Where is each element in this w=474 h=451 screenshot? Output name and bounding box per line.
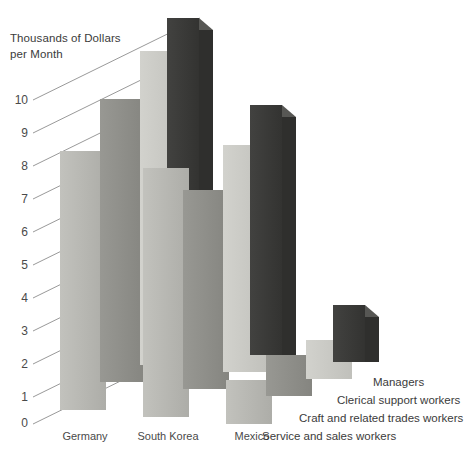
category-label-south-korea: South Korea xyxy=(122,430,214,442)
bar-southkorea-craft xyxy=(183,190,229,389)
bar-germany-service xyxy=(60,151,106,410)
chart-canvas: Thousands of Dollars per Month 10 9 8 7 … xyxy=(0,0,474,451)
category-label-germany: Germany xyxy=(45,430,125,442)
bar-mexico-service xyxy=(226,380,272,424)
legend-label-craft-and-related-trades-workers: Craft and related trades workers xyxy=(299,412,463,424)
legend-label-clerical-support-workers: Clerical support workers xyxy=(337,394,460,406)
legend-label-service-and-sales-workers: Service and sales workers xyxy=(262,430,396,442)
bar-mexico-craft xyxy=(266,355,312,396)
bar-southkorea-clerical xyxy=(223,145,269,372)
bar-germany-craft xyxy=(100,99,146,382)
bar-southkorea-service xyxy=(143,168,189,417)
legend-label-managers: Managers xyxy=(373,376,424,388)
